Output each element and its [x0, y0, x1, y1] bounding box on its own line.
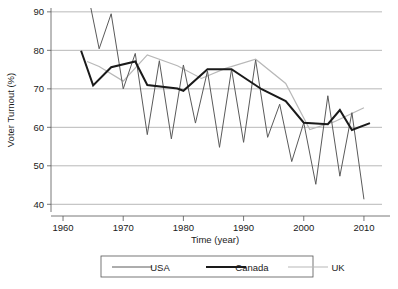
chart-figure: 405060708090 196019701980199020002010 Vo… — [0, 0, 398, 289]
voter-turnout-line-chart: 405060708090 196019701980199020002010 Vo… — [0, 0, 398, 289]
y-tick-label-40: 40 — [33, 199, 44, 210]
legend-label-canada: Canada — [235, 262, 269, 273]
series-line-canada — [81, 51, 370, 130]
series-line-usa — [87, 0, 364, 199]
y-tick-label-80: 80 — [33, 45, 44, 56]
series-group — [81, 0, 370, 199]
x-tick-label-1960: 1960 — [52, 222, 73, 233]
x-tick-label-2000: 2000 — [293, 222, 314, 233]
x-axis-ticks: 196019701980199020002010 — [52, 216, 374, 233]
chart-legend: USACanadaUK — [101, 256, 345, 277]
legend-label-usa: USA — [150, 262, 170, 273]
y-axis-ticks: 405060708090 — [33, 6, 51, 209]
y-axis-title: Voter Turnout (%) — [5, 73, 16, 147]
legend-label-uk: UK — [331, 262, 345, 273]
x-tick-label-1990: 1990 — [233, 222, 254, 233]
x-axis-title: Time (year) — [191, 234, 239, 245]
y-tick-label-90: 90 — [33, 6, 44, 17]
y-tick-label-60: 60 — [33, 122, 44, 133]
y-tick-label-70: 70 — [33, 83, 44, 94]
x-tick-label-2010: 2010 — [353, 222, 374, 233]
x-tick-label-1980: 1980 — [173, 222, 194, 233]
x-tick-label-1970: 1970 — [113, 222, 134, 233]
series-line-uk — [87, 55, 364, 130]
y-tick-label-50: 50 — [33, 160, 44, 171]
gridlines — [51, 12, 382, 204]
